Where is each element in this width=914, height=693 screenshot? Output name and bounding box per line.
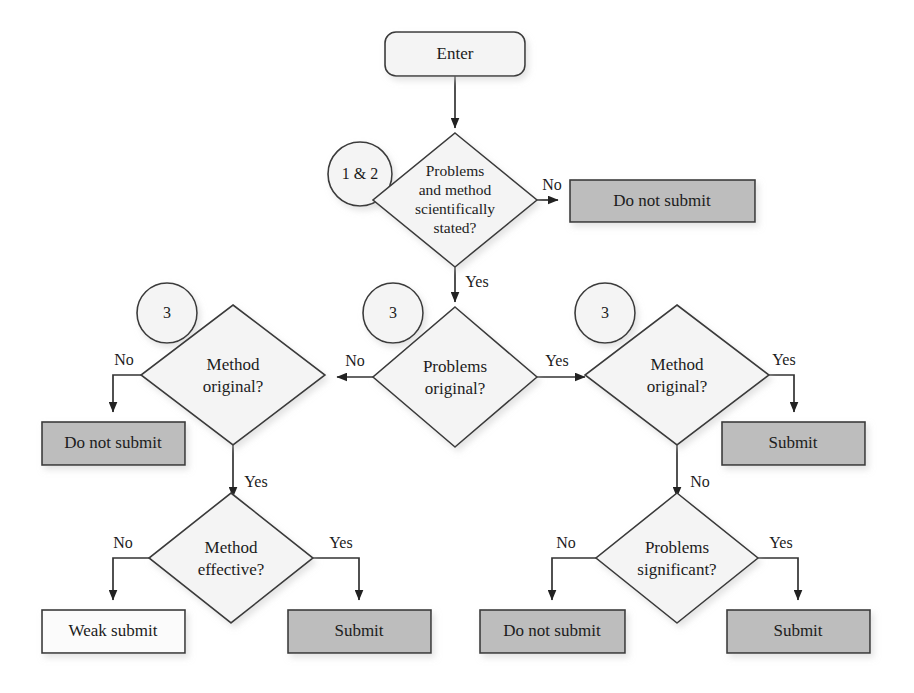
annot-3-left-label: 3 xyxy=(163,304,171,321)
edge-label-method-original-right-no: No xyxy=(690,473,710,490)
edge-label-problems-original-no: No xyxy=(345,352,365,369)
problems-original-label-line-2: original? xyxy=(425,379,485,398)
submit-bottom-right-label: Submit xyxy=(773,621,822,640)
node-problems-significant[interactable] xyxy=(596,493,758,623)
edge-problems-significant-yes xyxy=(757,558,798,600)
submit-bottom-left-label: Submit xyxy=(334,621,383,640)
edge-label-method-effective-yes: Yes xyxy=(329,534,352,551)
problems-significant-diamond[interactable] xyxy=(596,493,758,623)
do-not-submit-top-label: Do not submit xyxy=(613,191,711,210)
edge-label-scientific-no: No xyxy=(542,176,562,193)
annot-3-right-label: 3 xyxy=(601,304,609,321)
edge-label-problems-significant-yes: Yes xyxy=(769,534,792,551)
scientific-label-line-3: scientifically xyxy=(415,200,495,217)
method-effective-label-line-2: effective? xyxy=(198,560,265,579)
edge-label-problems-original-yes: Yes xyxy=(545,352,568,369)
method-original-left-label-line-1: Method xyxy=(207,355,260,374)
enter-label: Enter xyxy=(437,44,474,63)
edge-label-method-effective-no: No xyxy=(113,534,133,551)
edge-method-original-left-no xyxy=(113,375,151,412)
edge-label-method-original-left-yes: Yes xyxy=(244,473,267,490)
method-effective-label-line-1: Method xyxy=(205,538,258,557)
method-original-right-label-line-2: original? xyxy=(647,377,707,396)
flowchart-canvas: Enter 1 & 2 Problems and method scientif… xyxy=(0,0,914,693)
problems-original-label-line-1: Problems xyxy=(423,357,487,376)
weak-submit-label: Weak submit xyxy=(69,621,158,640)
annot-3-middle-label: 3 xyxy=(389,304,397,321)
problems-significant-label-line-1: Problems xyxy=(645,538,709,557)
do-not-submit-left-label: Do not submit xyxy=(64,433,162,452)
edge-method-original-right-yes xyxy=(759,375,794,412)
flowchart-svg: Enter 1 & 2 Problems and method scientif… xyxy=(0,0,914,693)
edge-problems-significant-no xyxy=(552,558,597,600)
submit-right-label: Submit xyxy=(768,433,817,452)
annot-1-2-label: 1 & 2 xyxy=(342,165,378,182)
scientific-label-line-1: Problems xyxy=(426,162,485,179)
edge-label-problems-significant-no: No xyxy=(556,534,576,551)
problems-significant-label-line-2: significant? xyxy=(637,560,716,579)
do-not-submit-bottom-label: Do not submit xyxy=(503,621,601,640)
scientific-label-line-4: stated? xyxy=(433,219,476,236)
edge-method-effective-yes xyxy=(312,558,359,600)
node-method-effective[interactable] xyxy=(149,493,313,623)
edge-label-method-original-left-no: No xyxy=(114,351,134,368)
edge-method-effective-no xyxy=(113,558,150,600)
scientific-label-line-2: and method xyxy=(419,181,492,198)
method-effective-diamond[interactable] xyxy=(149,493,313,623)
method-original-right-label-line-1: Method xyxy=(651,355,704,374)
edge-label-method-original-right-yes: Yes xyxy=(772,351,795,368)
edge-label-scientific-yes: Yes xyxy=(465,273,488,290)
method-original-left-label-line-2: original? xyxy=(203,377,263,396)
